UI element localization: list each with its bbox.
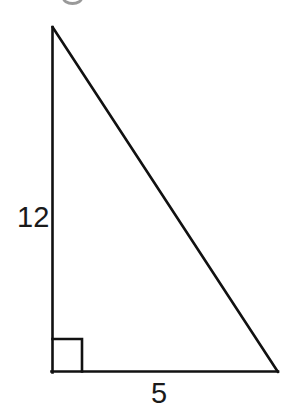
- figure-canvas: 12 5: [0, 0, 285, 413]
- hypotenuse-line: [53, 27, 279, 372]
- horizontal-leg-length-label: 5: [151, 379, 167, 408]
- vertical-leg-length-label: 12: [17, 203, 49, 232]
- right-angle-marker: [53, 339, 83, 372]
